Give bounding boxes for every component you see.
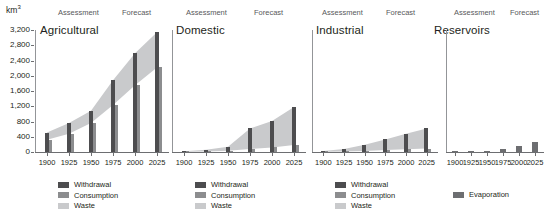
- x-axis-line: [172, 152, 306, 153]
- bar-withdrawal: [182, 151, 186, 152]
- x-axis-tick-mark: [157, 153, 158, 156]
- bar-consumption: [366, 151, 369, 152]
- bar-withdrawal: [321, 151, 325, 152]
- x-axis-tick-mark: [323, 153, 324, 156]
- legend-item-withdrawal: Withdrawal: [58, 180, 118, 189]
- bar-consumption: [274, 147, 277, 152]
- period-label-forecast: Forecast: [510, 8, 539, 17]
- plot-area: [313, 30, 437, 152]
- legend-swatch-withdrawal: [195, 182, 206, 188]
- x-axis-tick-label: 1900: [35, 158, 59, 167]
- plot-area: [173, 30, 305, 152]
- bar-withdrawal: [89, 111, 93, 152]
- x-axis-line: [312, 152, 438, 153]
- legend-swatch-consumption: [195, 192, 206, 198]
- x-axis-tick-label: 1950: [79, 158, 103, 167]
- waste-consumption-band: [173, 30, 305, 152]
- x-axis-tick-mark: [294, 153, 295, 156]
- bar-consumption: [115, 105, 118, 152]
- period-label-assessment: Assessment: [186, 8, 227, 17]
- period-label-assessment: Assessment: [58, 8, 99, 17]
- y-axis-tick-label: 0: [0, 148, 30, 156]
- y-axis-tick-label: 800: [0, 118, 30, 126]
- x-axis-tick-mark: [344, 153, 345, 156]
- bar-consumption: [137, 85, 140, 152]
- x-axis-tick-label: 2000: [260, 158, 284, 167]
- bar-consumption: [408, 149, 411, 152]
- legend-item-withdrawal: Withdrawal: [195, 180, 255, 189]
- y-axis-tick-mark: [31, 152, 34, 153]
- bar-withdrawal: [226, 147, 230, 152]
- y-axis-tick-mark: [31, 91, 34, 92]
- legend-swatch-waste: [195, 203, 206, 209]
- bar-consumption: [346, 151, 349, 152]
- y-axis-tick-label: 400: [0, 133, 30, 141]
- x-axis-tick-mark: [91, 153, 92, 156]
- bar-consumption: [296, 145, 299, 152]
- legend-swatch-consumption: [58, 192, 69, 198]
- legend-item-withdrawal: Withdrawal: [335, 180, 395, 189]
- bar-consumption: [49, 140, 52, 152]
- x-axis-tick-mark: [503, 153, 504, 156]
- bar-withdrawal: [404, 134, 408, 152]
- bar-evaporation: [452, 151, 458, 152]
- y-axis-tick-mark: [31, 137, 34, 138]
- legend-label-consumption: Consumption: [74, 191, 118, 200]
- bar-withdrawal: [111, 80, 115, 152]
- y-axis-tick-label: 2,400: [0, 57, 30, 65]
- x-axis-tick-label: 1925: [194, 158, 218, 167]
- x-axis-tick-mark: [135, 153, 136, 156]
- bar-consumption: [252, 149, 255, 152]
- legend-item-consumption: Consumption: [58, 191, 118, 200]
- bar-withdrawal: [342, 149, 346, 152]
- x-axis-tick-label: 1975: [101, 158, 125, 167]
- legend-item-waste: Waste: [58, 201, 118, 210]
- legend: WithdrawalConsumptionWaste: [335, 180, 395, 212]
- x-axis-tick-mark: [228, 153, 229, 156]
- y-axis-tick-label: 1,600: [0, 87, 30, 95]
- period-label-forecast: Forecast: [122, 8, 151, 17]
- legend-item-waste: Waste: [335, 201, 395, 210]
- bar-withdrawal: [362, 145, 366, 152]
- waste-consumption-band: [36, 30, 168, 152]
- bar-withdrawal: [155, 32, 159, 152]
- bar-consumption: [93, 123, 96, 152]
- period-label-assessment: Assessment: [454, 8, 495, 17]
- y-axis-tick-mark: [31, 106, 34, 107]
- period-label-forecast: Forecast: [386, 8, 415, 17]
- x-axis-line: [446, 152, 544, 153]
- bar-consumption: [325, 151, 328, 152]
- x-axis-tick-label: 1900: [172, 158, 196, 167]
- y-axis-tick-mark: [31, 122, 34, 123]
- legend-item-consumption: Consumption: [335, 191, 395, 200]
- x-axis-tick-mark: [272, 153, 273, 156]
- legend: WithdrawalConsumptionWaste: [58, 180, 118, 212]
- waste-consumption-band: [313, 30, 437, 152]
- x-axis-tick-mark: [206, 153, 207, 156]
- x-axis-tick-mark: [47, 153, 48, 156]
- bar-evaporation: [500, 149, 506, 152]
- x-axis-tick-label: 1950: [216, 158, 240, 167]
- bar-withdrawal: [204, 150, 208, 152]
- y-axis-tick-mark: [31, 45, 34, 46]
- x-axis-tick-mark: [365, 153, 366, 156]
- legend-label-evaporation: Evaporation: [469, 190, 509, 199]
- x-axis-tick-label: 2025: [145, 158, 169, 167]
- y-axis-tick-label: 1,200: [0, 102, 30, 110]
- x-axis-tick-label: 2025: [282, 158, 306, 167]
- legend-swatch-evaporation: [453, 192, 464, 198]
- legend-label-waste: Waste: [211, 201, 232, 210]
- bar-consumption: [387, 150, 390, 152]
- bar-withdrawal: [424, 128, 428, 152]
- x-axis-tick-mark: [385, 153, 386, 156]
- bar-consumption: [159, 67, 162, 152]
- legend-label-waste: Waste: [351, 201, 372, 210]
- period-label-assessment: Assessment: [322, 8, 363, 17]
- legend-swatch-waste: [335, 203, 346, 209]
- legend-swatch-waste: [58, 203, 69, 209]
- legend: Evaporation: [453, 190, 509, 201]
- legend: WithdrawalConsumptionWaste: [195, 180, 255, 212]
- x-axis-line: [35, 152, 169, 153]
- y-axis-tick-label: 2,800: [0, 41, 30, 49]
- bar-withdrawal: [383, 139, 387, 152]
